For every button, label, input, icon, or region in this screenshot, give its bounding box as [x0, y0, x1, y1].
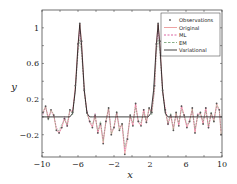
observation-point: [146, 121, 148, 123]
observation-point: [135, 103, 137, 105]
observation-point: [77, 43, 79, 45]
observation-point: [213, 121, 215, 123]
observation-point: [102, 143, 104, 145]
observation-point: [74, 85, 76, 87]
observation-point: [181, 105, 183, 107]
observation-point: [197, 114, 199, 116]
legend-label: EM: [179, 40, 187, 46]
observation-point: [205, 107, 207, 109]
observation-point: [127, 138, 129, 140]
x-tick-label: −2: [108, 160, 120, 169]
observation-point: [53, 114, 55, 116]
observation-point: [45, 105, 47, 107]
observation-point: [89, 121, 91, 123]
observation-point: [86, 112, 88, 114]
x-tick-label: 6: [183, 160, 188, 169]
observation-point: [137, 121, 139, 123]
observation-point: [72, 112, 74, 114]
observation-point: [94, 114, 96, 116]
observation-point: [124, 153, 126, 155]
observation-point: [113, 127, 115, 129]
observation-point: [216, 103, 218, 105]
x-axis-label: x: [127, 169, 133, 180]
observation-point: [97, 132, 99, 134]
y-tick-label: −0.2: [20, 131, 39, 140]
legend-label: ML: [179, 32, 186, 38]
y-tick-label: 1: [34, 24, 39, 33]
observation-point: [58, 132, 60, 134]
observation-point: [178, 125, 180, 127]
observation-point: [175, 112, 177, 114]
observation-point: [154, 85, 156, 87]
observation-point: [202, 123, 204, 125]
observation-point: [140, 125, 142, 127]
observation-point: [191, 107, 193, 109]
observation-point: [83, 89, 85, 91]
y-tick-label: 0.2: [26, 95, 39, 104]
observation-point: [81, 40, 83, 42]
x-tick-label: −10: [34, 160, 51, 169]
observation-point: [173, 129, 175, 131]
x-tick-label: 2: [147, 160, 152, 169]
observation-point: [194, 132, 196, 134]
observation-point: [92, 127, 94, 129]
observation-point: [148, 107, 150, 109]
observation-point: [159, 40, 161, 42]
observation-point: [69, 109, 71, 111]
x-tick-label: −6: [72, 160, 84, 169]
legend-label: Variational: [179, 47, 207, 53]
observation-point: [189, 121, 191, 123]
observation-point: [151, 112, 153, 114]
observation-point: [119, 129, 121, 131]
observation-point: [110, 134, 112, 136]
observation-point: [155, 43, 157, 45]
observation-point: [208, 127, 210, 129]
observation-point: [167, 123, 169, 125]
observation-point: [42, 112, 44, 114]
observation-point: [143, 109, 145, 111]
observation-point: [47, 118, 49, 120]
observation-point: [79, 23, 81, 25]
dot-marker-icon: [169, 19, 171, 21]
observation-point: [105, 121, 107, 123]
observation-point: [170, 114, 172, 116]
observation-point: [61, 127, 63, 129]
y-tick-label: 0.6: [26, 59, 39, 68]
observation-point: [164, 109, 166, 111]
observation-point: [108, 107, 110, 109]
y-tick-labels: −0.20.20.61: [20, 24, 39, 140]
legend-label: Observations: [179, 17, 214, 23]
x-tick-labels: −10−6−22610: [34, 160, 228, 169]
legend-label: Original: [179, 25, 199, 32]
observation-point: [210, 112, 212, 114]
observation-point: [56, 129, 58, 131]
observation-point: [157, 23, 159, 25]
chart: −10−6−22610 −0.20.20.61 x y Observations…: [0, 0, 237, 184]
observation-point: [64, 118, 66, 120]
observation-point: [186, 127, 188, 129]
observation-point: [116, 112, 118, 114]
observation-point: [200, 112, 202, 114]
observation-point: [121, 123, 123, 125]
observation-point: [66, 125, 68, 127]
observation-point: [100, 123, 102, 125]
observation-point: [129, 114, 131, 116]
observation-point: [218, 109, 220, 111]
observation-point: [183, 114, 185, 116]
observation-point: [50, 109, 52, 111]
observation-point: [220, 134, 222, 136]
x-tick-label: 10: [217, 160, 227, 169]
legend: Observations Original ML EM Variational: [161, 13, 220, 56]
observation-point: [132, 125, 134, 127]
y-axis-label: y: [10, 81, 17, 92]
observation-point: [162, 89, 164, 91]
